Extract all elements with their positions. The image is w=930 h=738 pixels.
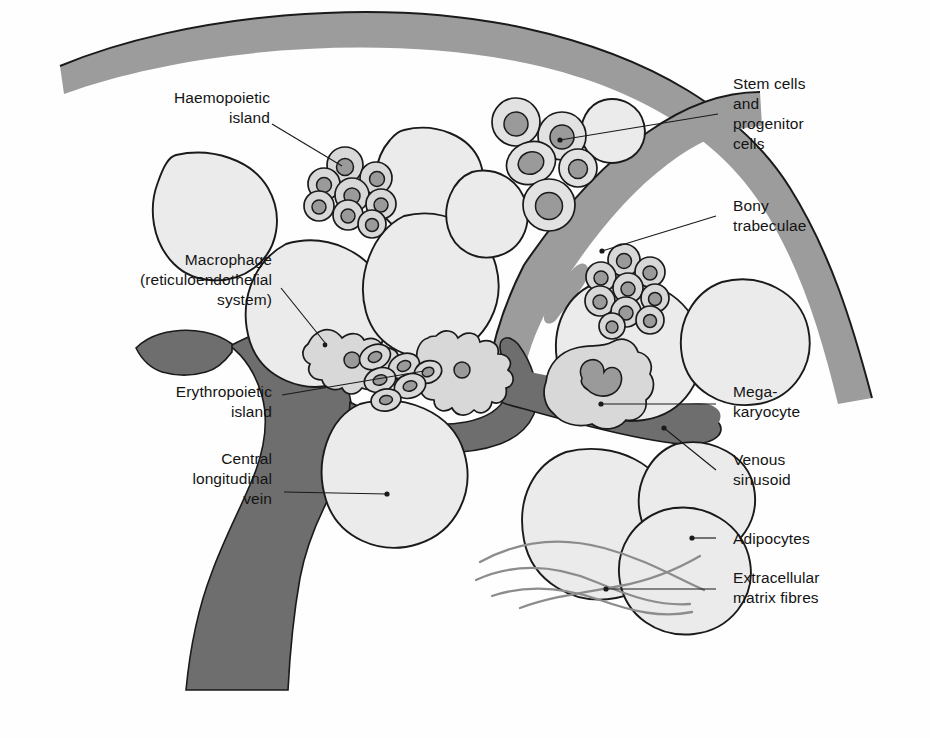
label-megakaryocyte: Mega- karyocyte <box>733 382 923 422</box>
label-macrophage: Macrophage (reticuloendothelial system) <box>10 250 272 310</box>
leader-dot-sinusoid <box>661 425 666 430</box>
stem-cell <box>559 149 597 187</box>
blood-cell <box>358 210 386 238</box>
leader-dot-trabeculae <box>599 248 604 253</box>
adipocyte <box>619 508 751 635</box>
leader-dot-stem-cells <box>557 137 562 142</box>
label-extracellular-matrix-fibres: Extracellular matrix fibres <box>733 568 923 608</box>
label-erythropoietic-island: Erythropoietic island <box>20 382 272 422</box>
label-stem-and-progenitor-cells: Stem cells and progenitor cells <box>733 74 923 155</box>
stem-cell <box>492 98 540 146</box>
label-central-longitudinal-vein: Central longitudinal vein <box>20 449 272 509</box>
label-haemopoietic-island: Haemopoietic island <box>20 88 270 128</box>
leader-dot-fibres <box>603 586 608 591</box>
leader-dot-megakaryocyte <box>598 401 603 406</box>
blood-cell <box>636 306 664 334</box>
blood-cell <box>304 191 334 221</box>
diagram-canvas: .adip { fill:#ebebeb; stroke:#1a1a1a; st… <box>0 0 930 738</box>
label-bony-trabeculae: Bony trabeculae <box>733 196 923 236</box>
blood-cell <box>599 313 625 339</box>
adipocyte <box>446 171 527 258</box>
leader-dot-vein <box>384 491 389 496</box>
label-venous-sinusoid: Venous sinusoid <box>733 450 923 490</box>
label-adipocytes: Adipocytes <box>733 529 923 549</box>
adipocyte <box>322 401 468 548</box>
leader-dot-adipocytes <box>689 535 694 540</box>
stem-cell <box>523 179 575 231</box>
